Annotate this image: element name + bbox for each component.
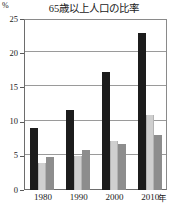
x-axis-unit-label: 年 [158,193,167,203]
bar [110,141,118,190]
bar-groups [24,19,167,190]
bar [154,135,162,190]
bar [102,72,110,190]
bar [30,128,38,190]
bar-group [102,19,127,190]
chart-title: 65歳以上人口の比率 [0,2,174,15]
bar [82,150,90,190]
bar [46,157,54,190]
y-axis-tick-label: 15 [0,83,18,92]
bar [74,156,82,190]
bar [118,144,126,191]
bar-group [138,19,163,190]
y-axis-tick-label: 0 [0,186,18,195]
bar [146,115,154,190]
y-axis-tick-label: 20 [0,49,18,58]
bar-group [30,19,55,190]
y-axis-tick [20,122,24,123]
x-axis-tick-label: 2000 [94,192,134,203]
bar [66,110,74,190]
y-axis-tick-label: 10 [0,117,18,126]
y-axis-tick [20,53,24,54]
y-axis-tick [20,156,24,157]
bar-group [66,19,91,190]
bar [38,163,46,190]
y-axis-tick-label: 5 [0,151,18,160]
bar-chart: % 65歳以上人口の比率 0510152025 1980199020002010… [0,0,174,218]
x-axis-tick-label: 1990 [59,192,99,203]
y-axis-tick [20,190,24,191]
x-axis-tick-label: 1980 [23,192,63,203]
y-axis-tick [20,87,24,88]
y-axis-tick-label: 25 [0,15,18,24]
bar [138,33,146,190]
y-axis-tick [20,19,24,20]
